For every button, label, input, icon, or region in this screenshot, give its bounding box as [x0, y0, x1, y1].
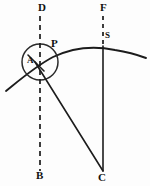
point-label-b: B: [36, 170, 43, 181]
point-label-s: S: [105, 31, 110, 40]
point-label-f: F: [100, 2, 107, 13]
radius-line-ac: [35, 62, 103, 171]
figure-canvas: [0, 0, 150, 186]
point-label-a: A: [27, 56, 34, 65]
geometry-figure: D F S P A B C: [0, 0, 150, 186]
point-label-d: D: [38, 2, 46, 13]
point-label-c: C: [98, 172, 106, 183]
point-label-p: P: [51, 38, 58, 49]
